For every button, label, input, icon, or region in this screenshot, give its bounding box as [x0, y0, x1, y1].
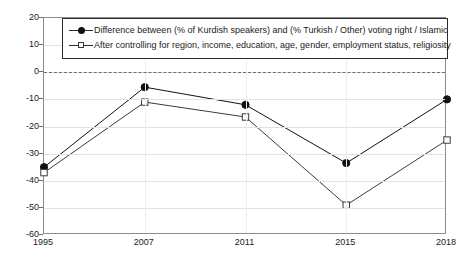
y-axis-tick-mark	[39, 71, 43, 72]
data-point-open-square	[444, 137, 450, 143]
y-axis-tick-label: -10	[3, 94, 39, 103]
x-axis-tick-label: 2011	[235, 238, 254, 247]
y-axis-tick-mark	[39, 98, 43, 99]
x-axis-tick-label: 2007	[134, 238, 154, 247]
x-axis-tick-label: 2018	[436, 238, 456, 247]
y-axis-tick-mark	[39, 126, 43, 127]
y-axis-tick-labels: 20100-10-20-30-40-50-60	[0, 17, 39, 234]
gridline-horizontal	[44, 127, 445, 128]
data-point-open-square	[41, 169, 47, 175]
open-square-marker-icon	[68, 40, 94, 52]
y-axis-tick-mark	[39, 207, 43, 208]
chart-legend: Difference between (% of Kurdish speaker…	[62, 18, 448, 59]
legend-item-label: After controlling for region, income, ed…	[94, 40, 451, 51]
y-axis-tick-label: -50	[3, 203, 39, 212]
filled-circle-marker-icon	[68, 25, 94, 37]
gridline-horizontal	[44, 208, 445, 209]
zero-reference-line	[44, 72, 445, 73]
y-axis-tick-mark	[39, 17, 43, 18]
chart-container: 20100-10-20-30-40-50-60 1995200720112015…	[0, 0, 476, 260]
legend-item-difference: Difference between (% of Kurdish speaker…	[68, 23, 442, 38]
y-axis-tick-label: -40	[3, 176, 39, 185]
gridline-horizontal	[44, 154, 445, 155]
legend-item-controlled: After controlling for region, income, ed…	[68, 38, 442, 53]
x-axis-tick-labels: 19952007201120152018	[43, 238, 446, 254]
y-axis-tick-mark	[39, 153, 43, 154]
y-axis-tick-label: -30	[3, 149, 39, 158]
y-axis-tick-mark	[39, 234, 43, 235]
y-axis-tick-mark	[39, 44, 43, 45]
y-axis-tick-label: 10	[3, 40, 39, 49]
y-axis-tick-mark	[39, 180, 43, 181]
x-axis-tick-label: 1995	[33, 238, 53, 247]
gridline-horizontal	[44, 99, 445, 100]
y-axis-tick-label: -20	[3, 122, 39, 131]
y-axis-tick-label: 0	[3, 67, 39, 76]
x-axis-tick-label: 2015	[335, 238, 355, 247]
gridline-horizontal	[44, 181, 445, 182]
y-axis-tick-label: 20	[3, 13, 39, 22]
legend-item-label: Difference between (% of Kurdish speaker…	[94, 25, 447, 36]
